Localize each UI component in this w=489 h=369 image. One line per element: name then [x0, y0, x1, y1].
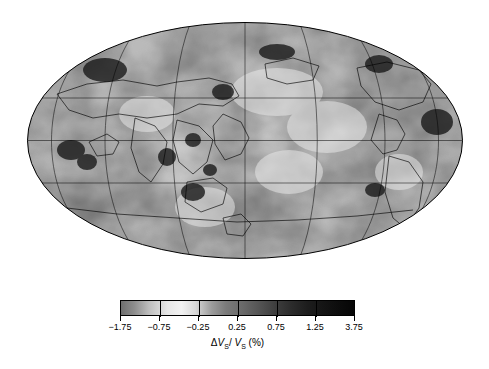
colorbar-tick-label: −0.75 [148, 321, 171, 333]
colorbar-divider [277, 301, 278, 317]
colorbar-axis-title: ΔVS/ VS (%) [120, 336, 355, 353]
colorbar-tick-label: 0.75 [267, 321, 285, 333]
mollweide-map [27, 22, 463, 259]
map-panel [27, 22, 463, 259]
colorbar-tick-labels: −1.75 −0.75 −0.25 0.25 0.75 1.25 3.75 [120, 321, 355, 334]
colorbar-divider [160, 301, 161, 317]
colorbar-tick-label: −0.25 [187, 321, 210, 333]
colorbar-tick-label: 3.75 [345, 321, 363, 333]
fraction-slash: / [229, 337, 232, 348]
vs-denominator-subscript: S [241, 343, 246, 350]
colorbar-tick-label: −1.75 [109, 321, 132, 333]
colorbar-tick-label: 1.25 [306, 321, 324, 333]
units-label: (%) [249, 337, 265, 348]
colorbar-group: −1.75 −0.75 −0.25 0.25 0.75 1.25 3.75 ΔV… [120, 300, 355, 316]
delta-symbol: Δ [211, 337, 218, 348]
colorbar-divider [199, 301, 200, 317]
colorbar-divider [316, 301, 317, 317]
colorbar [120, 300, 355, 316]
colorbar-tick-label: 0.25 [228, 321, 246, 333]
tomography-figure: −1.75 −0.75 −0.25 0.25 0.75 1.25 3.75 ΔV… [0, 0, 489, 369]
colorbar-divider [238, 301, 239, 317]
